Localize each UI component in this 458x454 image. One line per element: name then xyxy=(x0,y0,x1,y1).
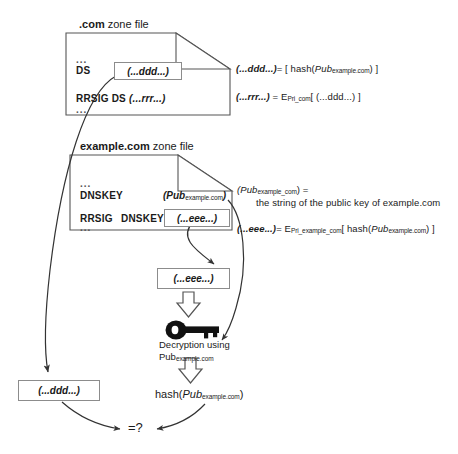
equation-pub-lhs-close: ) = xyxy=(297,184,309,195)
com-zone-rrsig-label: RRSIG DS (...rrr...) xyxy=(76,93,166,104)
com-zone-ds-label: DS xyxy=(76,65,90,76)
arrow-hash-to-equals xyxy=(157,404,205,429)
comparison-equals-question: =? xyxy=(128,421,143,435)
decryption-caption-sub: example.com xyxy=(176,355,214,362)
comparison-right-value: hash(Pubexample.com) xyxy=(155,388,243,400)
equation-ddd-lhs: (...ddd...) xyxy=(236,63,277,74)
decryption-caption-line2: Pubexample.com xyxy=(159,352,213,362)
equation-ddd-pub: Pub xyxy=(315,63,332,74)
com-zone-ellipsis-top: ... xyxy=(76,54,87,65)
equation-rrr-lhs: (...rrr...) xyxy=(236,91,270,102)
com-zone-file-title-rest: zone file xyxy=(105,18,149,30)
dnssec-diagram: .com zone file ... DS (...ddd...) RRSIG … xyxy=(0,0,458,454)
equation-eee-mid: [ hash( xyxy=(341,223,371,234)
comparison-right-tail: ) xyxy=(240,388,244,400)
equation-eee-tail: ) ] xyxy=(426,223,435,234)
com-zone-file-title: .com zone file xyxy=(79,18,149,30)
example-zone-dnskey-value: (Pubexample.com) xyxy=(163,190,226,201)
example-zone-rrsig-value: (...eee...) xyxy=(177,213,217,224)
equation-pub-description: the string of the public key of example.… xyxy=(256,198,440,208)
equation-ddd-sub: example.com xyxy=(332,67,370,74)
comparison-right-pub: Pub xyxy=(183,388,203,400)
equation-eee-sub: Pri_example_com xyxy=(291,227,342,234)
equation-rrr: (...rrr...) = EPri_com[ (...ddd...) ] xyxy=(236,92,361,102)
example-zone-dnskey-value-sub: example.com xyxy=(185,194,223,201)
example-zone-file-title-rest: zone file xyxy=(150,140,194,152)
example-zone-ellipsis-bottom: ... xyxy=(80,222,91,233)
equation-rrr-tail: [ (...ddd...) ] xyxy=(311,91,361,102)
example-zone-dnskey-value-close: ) xyxy=(223,190,226,201)
decryption-caption-pub: Pub xyxy=(159,351,176,362)
equation-ddd: (...ddd...)= [ hash(Pubexample.com) ] xyxy=(236,64,378,74)
com-zone-ellipsis-bottom: ... xyxy=(76,104,87,115)
comparison-left-value: (...ddd...) xyxy=(38,385,80,396)
equation-rrr-sub: Pri_com xyxy=(287,95,310,102)
hollow-arrow-down-to-key xyxy=(177,292,200,317)
equation-eee-lhs: (...eee...) xyxy=(237,223,276,234)
example-zone-dnskey-value-main: (Pub xyxy=(163,190,185,201)
com-zone-rrsig-label-text: RRSIG DS xyxy=(76,93,126,104)
equation-eee: (...eee...)= EPri_example_com[ hash(Pube… xyxy=(237,224,435,234)
com-zone-rrsig-value: (...rrr...) xyxy=(129,93,166,104)
arrow-ddd-to-equals xyxy=(62,402,120,429)
key-icon xyxy=(166,321,220,340)
equation-ddd-eq: = [ hash( xyxy=(277,63,315,74)
example-zone-rrsig-type: DNSKEY xyxy=(121,213,164,224)
comparison-right-sub: example.com xyxy=(202,393,240,400)
equation-rrr-eq: = E xyxy=(273,91,288,102)
comparison-right-main: hash( xyxy=(155,388,183,400)
example-zone-file-title: example.com zone file xyxy=(80,140,194,152)
equation-pub-lhs: (Pub xyxy=(237,184,257,195)
signature-value-box: (...eee...) xyxy=(157,268,230,289)
example-zone-rrsig-value-box: (...eee...) xyxy=(164,209,230,227)
equation-eee-pub: Pub xyxy=(371,223,388,234)
equation-pub-lhs-sub: example_com xyxy=(257,188,296,195)
com-zone-file-title-bold: .com xyxy=(79,18,105,30)
com-zone-ds-value: (...ddd...) xyxy=(127,66,169,77)
equation-ddd-tail: ) ] xyxy=(370,63,379,74)
equation-eee-eq: = E xyxy=(276,223,291,234)
com-zone-ds-value-box: (...ddd...) xyxy=(114,62,182,80)
example-zone-ellipsis-top: ... xyxy=(80,178,91,189)
signature-value: (...eee...) xyxy=(173,273,213,284)
example-zone-dnskey-label: DNSKEY xyxy=(80,190,123,201)
decryption-caption-line1: Decryption using xyxy=(159,340,230,350)
example-zone-file-title-bold: example.com xyxy=(80,140,150,152)
arrow-rrsig-to-signature-box xyxy=(187,222,214,264)
comparison-left-box: (...ddd...) xyxy=(18,380,100,401)
equation-pub-definition: (Pubexample_com) = xyxy=(237,185,309,195)
equation-eee-pub-sub: example.com xyxy=(388,227,426,234)
